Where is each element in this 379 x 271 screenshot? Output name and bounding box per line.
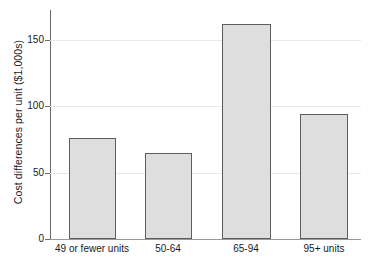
y-tick-label-0: 0 [18, 234, 44, 244]
bars-layer [50, 10, 361, 239]
bar-50-64[interactable] [145, 153, 192, 239]
y-tick-label-100: 100 [18, 101, 44, 111]
bar-chart: Cost differences per unit ($1,000s) 150 … [0, 0, 379, 271]
y-tick-label-150: 150 [18, 35, 44, 45]
x-tick-label-95-plus-units: 95+ units [274, 243, 374, 255]
bar-65-94[interactable] [222, 24, 271, 239]
y-axis-ticks: 150 100 50 0 [14, 10, 44, 240]
bar-95-plus-units[interactable] [300, 114, 348, 239]
x-axis-labels: 49 or fewer units 50-64 65-94 95+ units [50, 243, 361, 259]
gridline-0 [50, 239, 361, 240]
tick-mark-0 [45, 239, 50, 240]
bar-49-or-fewer-units[interactable] [69, 138, 116, 239]
y-tick-label-50: 50 [18, 168, 44, 178]
